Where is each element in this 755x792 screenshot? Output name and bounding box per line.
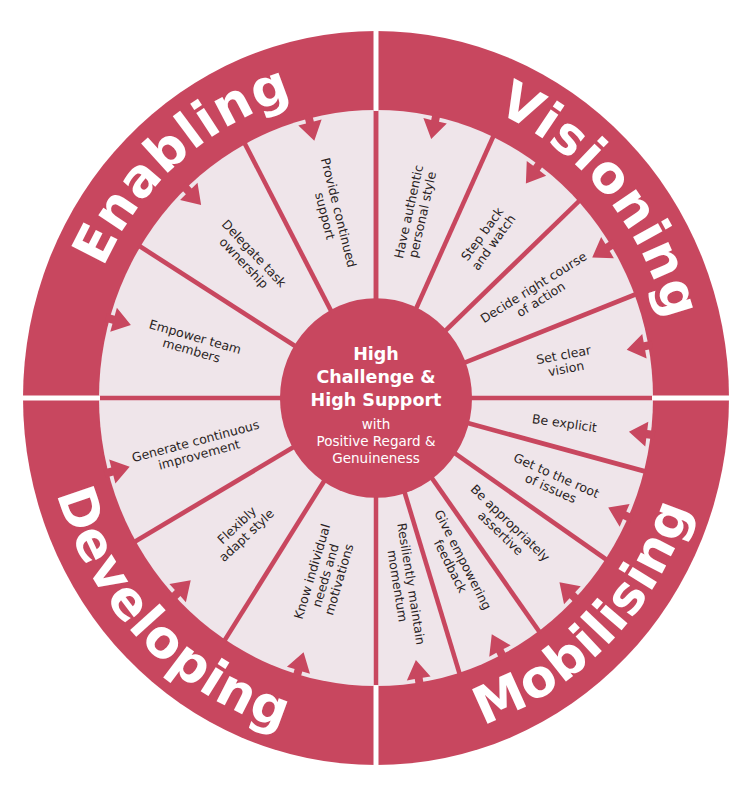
center-subtitle-line-2: Positive Regard & [317,433,436,449]
leadership-wheel-diagram: EnablingVisioningMobilisingDeveloping Ha… [0,0,755,792]
center-title-line-2: Challenge & [316,367,435,387]
center-subtitle-line-1: with [362,416,391,432]
center-title-line-1: High [353,344,399,364]
center-title-line-3: High Support [311,390,442,410]
center-subtitle-line-3: Genuineness [332,450,419,466]
